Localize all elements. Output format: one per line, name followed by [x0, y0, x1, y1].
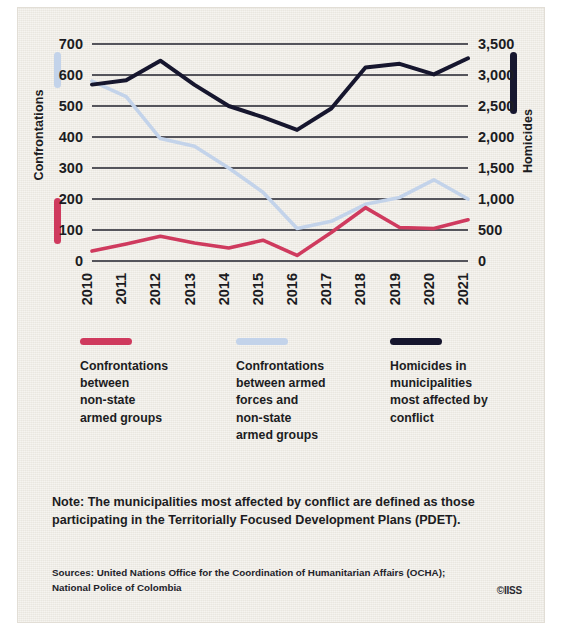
x-axis-tick: 2011 — [113, 273, 129, 304]
legend-item-homicides[interactable]: Homicides inmunicipalitiesmost affected … — [390, 338, 516, 427]
x-axis-tick: 2017 — [318, 273, 334, 305]
legend-label-line: armed groups — [80, 410, 206, 427]
x-axis-tick: 2016 — [284, 273, 300, 305]
y-axis-right-tick: 2,000 — [478, 129, 514, 145]
legend-label-line: between — [80, 375, 206, 392]
y-axis-right-ticklabels: 3,5003,0002,5002,0001,5001,0005000 — [478, 36, 514, 269]
series-line-2 — [92, 58, 468, 130]
y-axis-right-tick: 3,000 — [478, 67, 514, 83]
legend-swatch-confrontations-armed-forces — [236, 338, 288, 345]
y-axis-left-tick: 100 — [59, 222, 83, 238]
legend-label-line: conflict — [390, 410, 516, 427]
y-axis-right-tick: 2,500 — [478, 98, 514, 114]
y-axis-left-tick: 500 — [59, 98, 83, 114]
y-axis-left-tick: 600 — [59, 67, 83, 83]
x-axis-tick: 2021 — [455, 273, 471, 305]
x-axis-tick: 2014 — [216, 273, 232, 305]
chart-figure: Confrontations Homicides 700600500400300… — [18, 8, 544, 622]
x-axis-tick: 2015 — [250, 273, 266, 305]
y-axis-left-tick: 700 — [59, 36, 83, 52]
x-axis-tick: 2010 — [79, 273, 95, 305]
x-axis-tick: 2018 — [352, 273, 368, 305]
legend-label-confrontations-armed-forces: Confrontationsbetween armedforces andnon… — [236, 358, 362, 444]
chart-svg: 7006005004003002001000 3,5003,0002,5002,… — [18, 8, 544, 308]
y-axis-right-tick: 0 — [478, 253, 486, 269]
y-axis-right-tick: 3,500 — [478, 36, 514, 52]
series-line-1 — [92, 81, 468, 228]
y-axis-left-tick: 0 — [75, 253, 83, 269]
legend-item-confrontations-armed-forces[interactable]: Confrontationsbetween armedforces andnon… — [236, 338, 362, 444]
legend-swatch-homicides — [390, 338, 442, 345]
plot-area: Confrontations Homicides 700600500400300… — [18, 8, 544, 308]
legend-label-line: armed groups — [236, 427, 362, 444]
x-axis-tick: 2012 — [147, 273, 163, 305]
y-axis-right-tick: 500 — [478, 222, 502, 238]
legend-label-line: between armed — [236, 375, 362, 392]
legend-swatch-confrontations-non-state — [80, 338, 132, 345]
chart-legend: Confrontationsbetweennon-statearmed grou… — [18, 338, 544, 468]
series-lines — [92, 58, 468, 255]
y-axis-left-tick: 300 — [59, 160, 83, 176]
legend-label-confrontations-non-state: Confrontationsbetweennon-statearmed grou… — [80, 358, 206, 427]
series-line-0 — [92, 208, 468, 256]
legend-label-line: non-state — [236, 410, 362, 427]
y-axis-right-tick: 1,500 — [478, 160, 514, 176]
copyright-mark: ©IISS — [497, 585, 522, 596]
legend-label-line: Homicides in — [390, 358, 516, 375]
y-axis-left-ticklabels: 7006005004003002001000 — [59, 36, 83, 269]
legend-label-line: forces and — [236, 392, 362, 409]
y-axis-left-tick: 400 — [59, 129, 83, 145]
legend-label-line: municipalities — [390, 375, 516, 392]
legend-label-line: Confrontations — [236, 358, 362, 375]
x-axis-ticklabels: 2010201120122013201420152016201720182019… — [79, 273, 471, 305]
legend-label-line: non-state — [80, 392, 206, 409]
x-axis-tick: 2019 — [387, 273, 403, 305]
legend-label-line: most affected by — [390, 392, 516, 409]
x-axis-tick: 2013 — [182, 273, 198, 305]
chart-sources: Sources: United Nations Office for the C… — [52, 566, 472, 595]
x-axis-tick: 2020 — [421, 273, 437, 305]
chart-note: Note: The municipalities most affected b… — [52, 493, 504, 530]
legend-label-homicides: Homicides inmunicipalitiesmost affected … — [390, 358, 516, 427]
y-axis-right-tick: 1,000 — [478, 191, 514, 207]
y-axis-left-tick: 200 — [59, 191, 83, 207]
legend-item-confrontations-non-state[interactable]: Confrontationsbetweennon-statearmed grou… — [80, 338, 206, 427]
legend-label-line: Confrontations — [80, 358, 206, 375]
